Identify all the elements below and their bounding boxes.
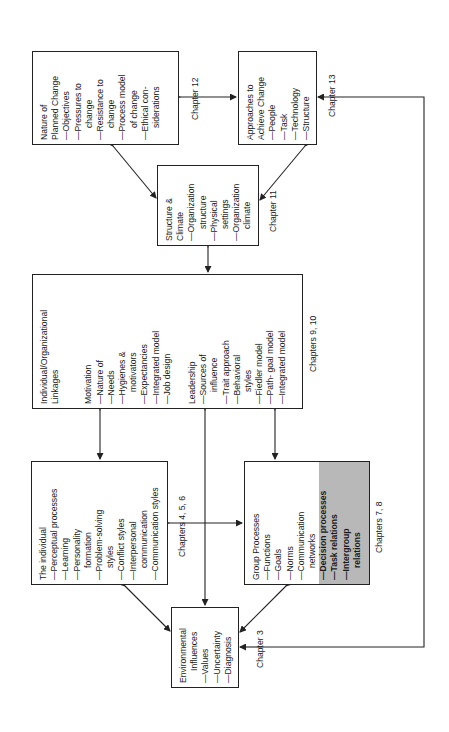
structure-title-1: Structure & [164, 172, 175, 241]
leadership-item: —Sources of [198, 281, 209, 404]
individual-item: —Interpersonal [128, 468, 139, 580]
box-the-individual: The individual —Perceptual processes —Le… [31, 461, 168, 585]
linkages-content: Individual/Organizational Linkages Motiv… [33, 275, 294, 409]
approaches-item: —Technology [290, 58, 301, 140]
arrow-group-environmental [240, 586, 286, 632]
approaches-title-2: Achieve Change [256, 58, 267, 140]
leadership-item: —Integrated model [277, 281, 288, 404]
approaches-item: —Task [279, 58, 290, 140]
group-item: —Goals [273, 468, 284, 580]
structure-item: —Organization [186, 172, 197, 241]
motivation-item: motivators [128, 281, 139, 404]
approaches-item: —People [267, 58, 278, 140]
structure-item: structure [198, 172, 209, 241]
motivation-item: —Hygienes & [117, 281, 128, 404]
nature-item: change [106, 58, 117, 140]
environmental-title-1: Environmental [178, 614, 189, 683]
linkages-title-1: Individual/Organizational [39, 281, 50, 404]
arrow-nature-structure [113, 146, 156, 198]
motivation-item: —Expectancies [139, 281, 150, 404]
group-item: —Functions [262, 468, 273, 580]
nature-item: siderations [151, 58, 162, 140]
box-nature-of-planned-change: Nature of Planned Change —Objectives —Pr… [32, 51, 179, 145]
group-content: Group Processes —Functions —Goals —Norms… [245, 462, 369, 585]
box-environmental-influences: Environmental Influences —Values —Uncert… [171, 607, 239, 688]
box-approaches-to-achieve-change: Approaches to Achieve Change —People —Ta… [238, 51, 317, 145]
nature-item: —Resistance to [95, 58, 106, 140]
individual-item: —Communication styles [150, 468, 161, 580]
chapters-9-10-label: Chapters 9, 10 [308, 316, 318, 372]
approaches-title-1: Approaches to [245, 58, 256, 140]
structure-item: —Physical [209, 172, 220, 241]
chapter-13-label: Chapter 13 [327, 74, 337, 117]
individual-item: —Learning [60, 468, 71, 580]
group-shaded-item: relations [352, 468, 363, 580]
environmental-item: —Values [200, 614, 211, 683]
environmental-title-2: Influences [189, 614, 200, 683]
nature-title-2: Planned Change [50, 58, 61, 140]
individual-item: communication [139, 468, 150, 580]
group-item: networks [307, 468, 318, 580]
leadership-item: —Fiedler model [254, 281, 265, 404]
individual-item: formation [83, 468, 94, 580]
individual-item: —Personality [72, 468, 83, 580]
nature-title-1: Nature of [39, 58, 50, 140]
structure-item: climate [242, 172, 253, 241]
group-shaded-item: —Intergroup [341, 468, 352, 580]
chapter-3-label: Chapter 3 [255, 630, 265, 668]
leadership-item: styles [243, 281, 254, 404]
nature-item: of change [129, 58, 140, 140]
linkages-title-2: Linkages [50, 281, 61, 404]
group-shaded-item: —Decision processes [318, 468, 329, 580]
motivation-heading: Motivation [83, 281, 94, 404]
box-group-processes: Group Processes —Functions —Goals —Norms… [244, 461, 370, 585]
nature-item: —Objectives [61, 58, 72, 140]
nature-item: —Ethical con- [140, 58, 151, 140]
chapters-4-5-6-label: Chapters 4, 5, 6 [177, 496, 187, 557]
chapters-7-8-label: Chapters 7, 8 [374, 501, 384, 553]
environmental-content: Environmental Influences —Values —Uncert… [172, 608, 239, 688]
leadership-item: —Path- goal model [265, 281, 276, 404]
approaches-item: —Structure [301, 58, 312, 140]
group-shaded-item: —Task relations [329, 468, 340, 580]
chapter-11-label: Chapter 11 [268, 190, 278, 232]
leadership-item: —Trait approach [221, 281, 232, 404]
group-item: —Communication [296, 468, 307, 580]
arrow-individual-environmental [125, 586, 170, 631]
nature-item: —Process model [117, 58, 128, 140]
nature-item: change [84, 58, 95, 140]
environmental-item: —Uncertainty [212, 614, 223, 683]
chapter-12-label: Chapter 12 [190, 77, 200, 120]
structure-item: settings [220, 172, 231, 241]
motivation-item: —Job design [162, 281, 173, 404]
individual-item: —Problem-solving [94, 468, 105, 580]
structure-item: —Organization [231, 172, 242, 241]
individual-content: The individual —Perceptual processes —Le… [32, 462, 167, 585]
box-individual-organizational-linkages: Individual/Organizational Linkages Motiv… [32, 274, 303, 409]
group-item: —Norms [285, 468, 296, 580]
motivation-item: —Needs [106, 281, 117, 404]
nature-item: —Pressures to [73, 58, 84, 140]
group-title: Group Processes [251, 468, 262, 580]
motivation-item: —Nature of [95, 281, 106, 404]
individual-item: styles [105, 468, 116, 580]
structure-title-2: Climate [175, 172, 186, 241]
box-structure-and-climate: Structure & Climate —Organization struct… [157, 165, 259, 246]
structure-content: Structure & Climate —Organization struct… [158, 166, 259, 246]
motivation-item: —Integrated model [151, 281, 162, 404]
leadership-heading: Leadership [187, 281, 198, 404]
leadership-item: influence [209, 281, 220, 404]
individual-item: —Perceptual processes [49, 468, 60, 580]
leadership-item: —Behavioral [232, 281, 243, 404]
approaches-content: Approaches to Achieve Change —People —Ta… [239, 52, 317, 145]
individual-title: The individual [38, 468, 49, 580]
arrow-approaches-structure [260, 146, 305, 200]
environmental-item: —Diagnosis [223, 614, 234, 683]
nature-content: Nature of Planned Change —Objectives —Pr… [33, 52, 168, 145]
individual-item: —Conflict styles [116, 468, 127, 580]
